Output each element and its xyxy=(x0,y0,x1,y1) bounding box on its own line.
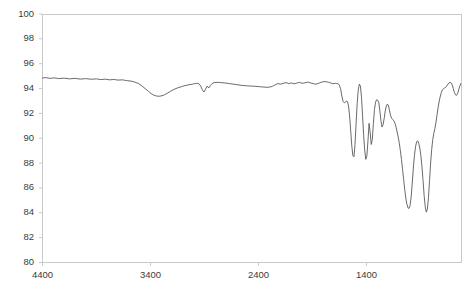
y-tick-label: 92 xyxy=(6,108,34,118)
x-tick-label: 2400 xyxy=(239,270,279,280)
x-axis-ticks xyxy=(43,263,367,267)
y-tick-label: 90 xyxy=(6,133,34,143)
y-tick-label: 94 xyxy=(6,83,34,93)
y-tick-label: 80 xyxy=(6,257,34,267)
y-tick-label: 96 xyxy=(6,58,34,68)
x-tick-label: 4400 xyxy=(23,270,63,280)
ir-spectrum-chart: 80828486889092949698100 4400340024001400 xyxy=(0,0,475,299)
spectrum-trace-group xyxy=(43,78,461,213)
axis-frame xyxy=(42,14,462,263)
spectrum-line xyxy=(43,78,461,213)
y-tick-label: 98 xyxy=(6,33,34,43)
y-tick-label: 84 xyxy=(6,207,34,217)
y-tick-label: 100 xyxy=(6,9,34,19)
y-tick-label: 86 xyxy=(6,182,34,192)
x-tick-label: 3400 xyxy=(131,270,171,280)
y-tick-label: 88 xyxy=(6,158,34,168)
plot-area xyxy=(0,0,475,299)
x-tick-label: 1400 xyxy=(347,270,387,280)
y-axis-ticks xyxy=(39,14,43,263)
y-tick-label: 82 xyxy=(6,232,34,242)
